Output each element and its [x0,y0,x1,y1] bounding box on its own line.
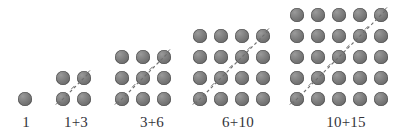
dot-group-3 [115,50,171,106]
dot [157,71,171,85]
dot [235,50,249,64]
dot [157,92,171,106]
dot [374,71,388,85]
dot [136,71,150,85]
group-label-3: 3+6 [122,113,182,131]
dot [311,92,325,106]
dot [56,92,70,106]
dot [193,92,207,106]
dot [332,50,346,64]
dot-group-2 [56,71,91,106]
dot [332,29,346,43]
dot-group-4 [193,29,270,106]
dot [311,8,325,22]
group-label-5: 10+15 [291,113,401,131]
dot [311,29,325,43]
dot [332,92,346,106]
dot [214,71,228,85]
dot [235,71,249,85]
dot [214,50,228,64]
dot [256,71,270,85]
dot [77,71,91,85]
dot [193,71,207,85]
dot [374,50,388,64]
dot [193,50,207,64]
dot [290,29,304,43]
dot [290,50,304,64]
dot [136,50,150,64]
dot [311,50,325,64]
dot [374,29,388,43]
group-label-2: 1+3 [56,113,96,131]
dot [332,8,346,22]
dot [56,71,70,85]
dot [353,8,367,22]
dot [374,8,388,22]
dot [214,29,228,43]
dot [353,71,367,85]
dot [193,29,207,43]
group-label-1: 1 [10,113,42,131]
dot [18,92,32,106]
dot [235,92,249,106]
group-label-4: 6+10 [196,113,280,131]
dot [353,50,367,64]
dot [115,92,129,106]
dot [157,50,171,64]
triangular-number-figure: 11+33+66+1010+15 [0,0,412,138]
dot [256,29,270,43]
dot [115,50,129,64]
dot [136,92,150,106]
dot-group-5 [290,8,388,106]
dot-group-1 [18,92,32,106]
dot [235,29,249,43]
dot [115,71,129,85]
dot [311,71,325,85]
dot [256,50,270,64]
dot [332,71,346,85]
dot [290,92,304,106]
dot [290,71,304,85]
dot [374,92,388,106]
dot [256,92,270,106]
dot [214,92,228,106]
dot [77,92,91,106]
dot [353,92,367,106]
dot [290,8,304,22]
dot [353,29,367,43]
